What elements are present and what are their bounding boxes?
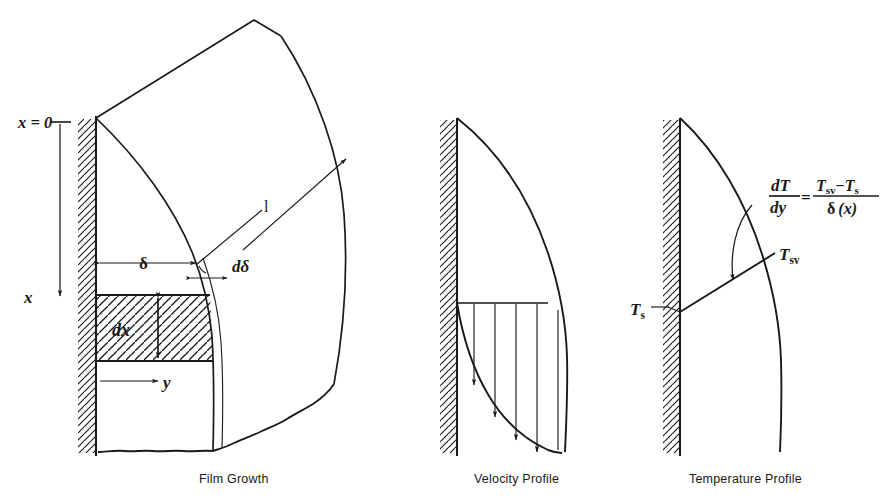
temperature-gradient-equation: dT dy = Tsv−Ts δ(x) [769,176,879,218]
eq-rhs-sub1: sv [826,184,836,196]
figure-root: x = 0 x y l δ dδ dx [0,0,883,503]
svg-text:Tsv−Ts: Tsv−Ts [816,177,859,196]
eq-den-y: y [777,198,787,217]
slab-top-face [96,20,281,118]
eq-num-T: T [780,176,791,195]
panel-film-growth: x = 0 x y l δ dδ dx [17,20,346,456]
delta-text: δ [139,254,148,273]
x-axis-label: x [23,288,33,307]
d-delta-text: dδ [232,257,250,276]
diagram-canvas: x = 0 x y l δ dδ dx [0,0,883,503]
svg-text:dT: dT [771,176,791,195]
eq-rhs-minus: − [836,177,845,194]
t-saturation-label: Tsv [779,245,800,266]
caption-film-growth: Film Growth [199,472,269,486]
caption-velocity-profile: Velocity Profile [474,472,559,486]
length-leader-line [243,159,346,250]
eq-equals-sign: = [801,188,811,207]
slab-torn-edge-bottom [98,451,213,452]
temperature-profile-line [680,253,775,312]
caption-temperature-profile: Temperature Profile [689,472,802,486]
y-axis-text: y [161,373,171,392]
eq-rhs-sub2: s [854,184,859,196]
length-label: l [264,198,269,215]
svg-text:δ(x): δ(x) [827,200,857,218]
eq-den-delta: δ [827,200,835,217]
x-origin-text: x = 0 [17,113,52,132]
t-surface-label: Ts [630,300,645,321]
t-saturation-subscript: sv [789,254,799,266]
d-delta-label: dδ [232,257,250,276]
wall-hatching-velocity [440,120,457,453]
velocity-arrows [474,304,558,452]
x-origin-label: x = 0 [17,113,52,132]
film-surface-curve [96,118,214,451]
slab-torn-edge-right [213,384,334,451]
svg-text:dy: dy [770,198,787,217]
t-surface-main: T [630,300,641,319]
t-saturation-main: T [779,245,790,264]
t-surface-subscript: s [640,309,645,321]
velocity-film-surface [457,118,567,452]
wall-hatching-temperature [663,120,680,453]
wall-hatching-film [78,119,96,453]
dx-text: dx [112,320,130,340]
dx-label: dx [112,320,130,340]
eq-den-x: (x) [838,200,857,218]
length-leader-line-lower [196,210,262,265]
length-text: l [264,198,269,215]
temperature-film-surface [680,118,781,452]
x-axis-text: x [23,288,33,307]
panel-velocity-profile [440,118,567,456]
slab-back-edge [281,36,346,384]
panel-temperature-profile: dT dy = Tsv−Ts δ(x) [630,118,879,456]
velocity-profile-curve [457,303,562,453]
delta-label: δ [139,254,148,273]
y-axis-label: y [161,373,171,392]
